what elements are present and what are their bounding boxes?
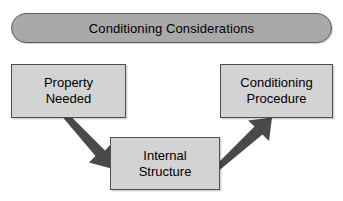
node-property-needed[interactable]: Property Needed	[11, 64, 126, 118]
node-property-needed-line-2: Needed	[46, 91, 92, 107]
node-conditioning-procedure[interactable]: Conditioning Procedure	[220, 64, 333, 118]
node-conditioning-procedure-line-1: Conditioning	[240, 75, 312, 91]
diagram-title-banner: Conditioning Considerations	[11, 13, 332, 43]
node-property-needed-line-1: Property	[44, 75, 93, 91]
node-internal-structure[interactable]: Internal Structure	[110, 137, 220, 190]
diagram-title-text: Conditioning Considerations	[89, 21, 254, 36]
arrow-internal-to-procedure	[219, 118, 272, 171]
arrow-property-to-internal	[63, 117, 114, 169]
node-internal-structure-line-2: Structure	[139, 164, 192, 180]
node-conditioning-procedure-line-2: Procedure	[247, 91, 307, 107]
node-internal-structure-line-1: Internal	[143, 148, 186, 164]
diagram-canvas: Conditioning Considerations Property Nee…	[0, 0, 343, 201]
